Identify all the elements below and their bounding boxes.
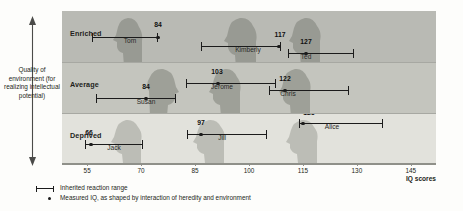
person-name-ted: Ted bbox=[301, 53, 312, 60]
x-axis-tick bbox=[249, 163, 250, 166]
band-label-average: Average bbox=[70, 80, 99, 89]
y-axis-label: Quality of environment (for realizing in… bbox=[4, 66, 60, 100]
measured-value-susan: 84 bbox=[142, 83, 150, 90]
person-name-tom: Tom bbox=[124, 37, 136, 44]
x-axis-tick-label: 85 bbox=[191, 167, 198, 174]
range-bar-jill bbox=[187, 130, 267, 139]
silhouette-kimberly bbox=[222, 11, 272, 62]
range-bar-icon bbox=[36, 188, 54, 189]
range-cap-left-icon bbox=[36, 186, 37, 192]
measured-dot-icon bbox=[48, 197, 51, 200]
measured-value-chris: 122 bbox=[279, 75, 290, 82]
measured-dot-jill bbox=[199, 133, 203, 137]
band-label-enriched: Enriched bbox=[70, 29, 102, 38]
x-axis-tick bbox=[141, 163, 142, 166]
legend-label-range: Inherited reaction range bbox=[60, 184, 128, 191]
band-enriched: 84 Tom 117 Kimberly 127 Ted Enriched bbox=[62, 11, 436, 62]
band-deprived: 66 Jack 97 Jill 125 Alice Deprived bbox=[62, 113, 436, 163]
range-bar-ted bbox=[288, 49, 354, 58]
legend: Inherited reaction range Measured IQ, as… bbox=[36, 184, 436, 204]
x-axis-title: IQ scores bbox=[406, 175, 436, 182]
person-name-susan: Susan bbox=[137, 98, 156, 105]
range-bar-alice bbox=[299, 119, 383, 128]
measured-value-jerome: 103 bbox=[211, 68, 222, 75]
x-axis-tick-label: 115 bbox=[298, 167, 308, 174]
range-cap-right-icon bbox=[53, 186, 54, 192]
measured-dot-tom bbox=[156, 36, 160, 40]
reaction-range-figure: Quality of environment (for realizing in… bbox=[0, 0, 463, 211]
legend-label-measured: Measured IQ, as shaped by interaction of… bbox=[60, 194, 251, 201]
x-axis-tick-label: 70 bbox=[138, 167, 145, 174]
x-axis-tick-label: 55 bbox=[84, 167, 91, 174]
plot-area: 84 Tom 117 Kimberly 127 Ted Enriched bbox=[62, 11, 436, 163]
measured-dot-jack bbox=[89, 143, 93, 147]
measured-value-tom: 84 bbox=[154, 21, 162, 28]
band-label-deprived: Deprived bbox=[70, 131, 102, 140]
x-axis-tick bbox=[195, 163, 196, 166]
x-axis-tick bbox=[303, 163, 304, 166]
measured-dot-alice bbox=[301, 122, 305, 126]
measured-value-jill: 97 bbox=[197, 119, 205, 126]
band-divider-2 bbox=[62, 113, 436, 114]
x-axis-tick bbox=[87, 163, 88, 166]
y-axis: Quality of environment (for realizing in… bbox=[4, 16, 60, 166]
band-average: 84 Susan 103 Jerome 122 Chris Average bbox=[62, 62, 436, 113]
silhouette-susan bbox=[132, 62, 182, 113]
person-name-alice: Alice bbox=[325, 123, 339, 130]
person-name-jack: Jack bbox=[107, 144, 121, 151]
x-axis-tick bbox=[411, 163, 412, 166]
measured-value-ted: 127 bbox=[300, 38, 311, 45]
measured-value-kimberly: 117 bbox=[275, 31, 286, 38]
band-divider-1 bbox=[62, 62, 436, 63]
person-name-kimberly: Kimberly bbox=[235, 46, 261, 53]
person-name-jill: Jill bbox=[218, 134, 226, 141]
legend-item-range: Inherited reaction range bbox=[36, 184, 436, 194]
measured-dot-kimberly bbox=[277, 45, 281, 49]
silhouette-jack bbox=[110, 113, 156, 163]
legend-item-measured: Measured IQ, as shaped by interaction of… bbox=[36, 194, 436, 204]
person-name-jerome: Jerome bbox=[211, 83, 233, 90]
x-axis-tick-label: 100 bbox=[244, 167, 255, 174]
x-axis-tick-label: 130 bbox=[352, 167, 363, 174]
x-axis-tick bbox=[357, 163, 358, 166]
x-axis-tick-label: 145 bbox=[405, 167, 416, 174]
person-name-chris: Chris bbox=[280, 90, 295, 97]
